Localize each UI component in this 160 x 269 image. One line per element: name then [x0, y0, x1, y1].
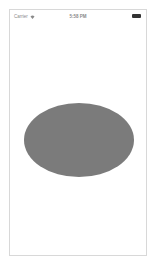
- device-screen: Carrier 5:58 PM: [9, 9, 147, 256]
- content-area: [10, 22, 146, 255]
- gray-ellipse-shape: [24, 103, 134, 177]
- status-time: 5:58 PM: [10, 14, 146, 19]
- battery-icon: [132, 14, 141, 18]
- status-bar: Carrier 5:58 PM: [10, 10, 146, 22]
